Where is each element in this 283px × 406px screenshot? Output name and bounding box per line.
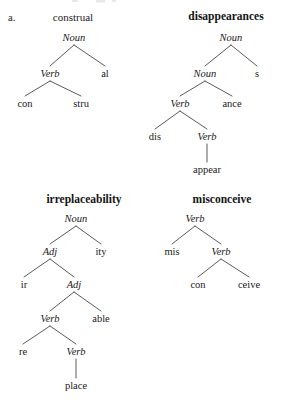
tree-node-category: Noun bbox=[64, 213, 88, 224]
morphology-tree-figure: a. construal disappearances irreplaceabi… bbox=[0, 0, 283, 406]
tree-node-morpheme: con bbox=[190, 279, 206, 290]
tree-node-morpheme: dis bbox=[149, 131, 161, 142]
tree-node-morpheme: place bbox=[65, 380, 87, 391]
tree-node-category: Verb bbox=[40, 313, 59, 324]
tree-node-morpheme: able bbox=[92, 313, 110, 324]
tree-node-morpheme: ance bbox=[222, 98, 242, 109]
tree-node-morpheme: mis bbox=[164, 246, 179, 257]
tree-node-morpheme: re bbox=[19, 346, 27, 357]
tree-node-morpheme: con bbox=[17, 98, 33, 109]
headword-irreplaceability: irreplaceability bbox=[46, 193, 121, 206]
tree-node-category: Adj bbox=[66, 279, 82, 290]
item-label: a. bbox=[8, 12, 15, 23]
tree-node-morpheme: ity bbox=[95, 246, 107, 257]
tree-node-category: Noun bbox=[219, 32, 243, 43]
tree-node-morpheme: ir bbox=[21, 279, 28, 290]
tree-node-category: Noun bbox=[193, 68, 217, 79]
tree-node-category: Verb bbox=[66, 346, 85, 357]
tree-node-category: Verb bbox=[197, 131, 216, 142]
headword-construal: construal bbox=[53, 11, 93, 23]
tree-node-morpheme: appear bbox=[193, 164, 221, 175]
headword-misconceive: misconceive bbox=[193, 193, 252, 205]
tree-node-category: Verb bbox=[185, 213, 204, 224]
tree-node-morpheme: stru bbox=[73, 98, 90, 109]
tree-node-morpheme: ceive bbox=[238, 279, 260, 290]
tree-node-category: Adj bbox=[42, 246, 58, 257]
tree-node-category: Noun bbox=[62, 32, 86, 43]
tree-node-category: Verb bbox=[170, 98, 189, 109]
tree-node-category: Verb bbox=[211, 246, 230, 257]
tree-node-morpheme: s bbox=[255, 68, 259, 79]
tree-node-category: Verb bbox=[40, 68, 59, 79]
headword-disappearances: disappearances bbox=[188, 10, 264, 23]
tree-node-morpheme: al bbox=[101, 68, 109, 79]
tree-diagram-canvas: a. construal disappearances irreplaceabi… bbox=[0, 0, 283, 406]
